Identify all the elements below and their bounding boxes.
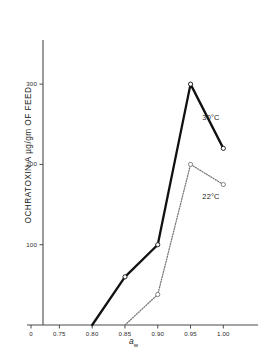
data-point-22°C-1.00 bbox=[221, 182, 225, 186]
chart-figure: OCHRATOXIN A µg/gm OF FEED aw 1002003000… bbox=[0, 0, 267, 356]
y-tick-label-100: 100 bbox=[15, 241, 37, 248]
data-point-22°C-0.90 bbox=[156, 292, 160, 296]
data-point-30°C-0.85 bbox=[123, 275, 127, 279]
series-label-22°C: 22°C bbox=[202, 192, 219, 201]
x-axis-title-subscript: w bbox=[134, 342, 138, 348]
x-tick-label-0.80: 0.80 bbox=[79, 330, 105, 337]
data-point-30°C-1.00 bbox=[221, 146, 225, 150]
x-tick-label-0.95: 0.95 bbox=[178, 330, 204, 337]
x-tick-label-0.85: 0.85 bbox=[112, 330, 138, 337]
x-axis-title: aw bbox=[0, 336, 267, 348]
x-tick-label-0.75: 0.75 bbox=[46, 330, 72, 337]
data-point-22°C-0.95 bbox=[188, 162, 192, 166]
series-label-30°C: 30°C bbox=[202, 113, 219, 122]
series-line-22°C bbox=[125, 164, 223, 325]
x-tick-label-1.00: 1.00 bbox=[210, 330, 236, 337]
y-tick-label-300: 300 bbox=[15, 80, 37, 87]
plot-area bbox=[0, 0, 267, 356]
data-point-30°C-0.95 bbox=[188, 82, 192, 86]
x-tick-label-0: 0 bbox=[18, 330, 44, 337]
x-tick-label-0.90: 0.90 bbox=[145, 330, 171, 337]
y-tick-label-200: 200 bbox=[15, 160, 37, 167]
data-point-30°C-0.90 bbox=[156, 243, 160, 247]
